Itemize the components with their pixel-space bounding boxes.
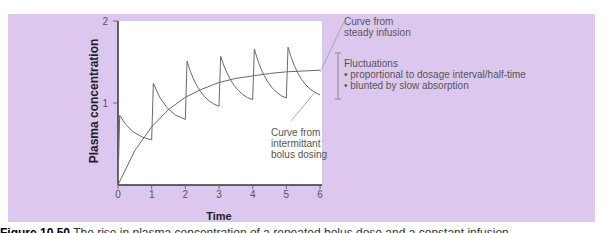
bolus-annotation-line1: Curve from xyxy=(271,127,327,138)
x-tick-label: 5 xyxy=(284,189,290,200)
y-tick-label: 2 xyxy=(102,16,108,27)
x-tick-label: 4 xyxy=(250,189,256,200)
infusion-annotation-line1: Curve from xyxy=(344,16,411,27)
plot-background xyxy=(118,21,322,185)
infusion-leader-line xyxy=(320,22,344,72)
figure-caption: Figure 10.50 The rise in plasma concentr… xyxy=(0,226,509,233)
infusion-annotation-line2: steady infusion xyxy=(344,27,411,38)
x-axis-label: Time xyxy=(206,210,231,222)
fluctuations-annotation: Fluctuations proportional to dosage inte… xyxy=(344,58,526,91)
x-tick-label: 1 xyxy=(149,189,155,200)
infusion-annotation: Curve from steady infusion xyxy=(344,16,411,38)
y-axis-label: Plasma concentration xyxy=(87,39,101,164)
x-tick-label: 0 xyxy=(115,189,121,200)
fluctuations-list: proportional to dosage interval/half-tim… xyxy=(344,69,526,91)
figure-number: Figure 10.50 xyxy=(0,226,70,233)
x-tick-label: 6 xyxy=(317,189,323,200)
bolus-annotation-line2: intermittant xyxy=(271,138,327,149)
x-tick-label: 3 xyxy=(216,189,222,200)
fluctuations-title: Fluctuations xyxy=(344,58,526,69)
fluctuations-point: blunted by slow absorption xyxy=(344,80,526,91)
bolus-annotation: Curve from intermittant bolus dosing xyxy=(271,127,327,160)
fluctuations-point: proportional to dosage interval/half-tim… xyxy=(344,69,526,80)
fluctuation-bracket xyxy=(335,53,341,99)
caption-text: The rise in plasma concentration of a re… xyxy=(73,226,509,233)
bolus-annotation-line3: bolus dosing xyxy=(271,149,327,160)
y-tick-label: 1 xyxy=(102,98,108,109)
x-tick-label: 2 xyxy=(183,189,189,200)
